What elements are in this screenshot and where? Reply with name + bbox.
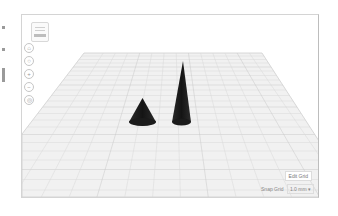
workplane-scene[interactable] (21, 14, 319, 198)
3d-viewport[interactable]: ⌂ ○ + − ◎ Edit Grid Snap Grid 1.0 mm ▾ (21, 14, 319, 198)
fit-icon: ○ (27, 58, 31, 64)
strip-mark (2, 48, 5, 51)
left-strip (0, 0, 18, 216)
minus-icon: − (27, 84, 31, 90)
ortho-icon: ◎ (27, 97, 32, 103)
snap-grid-select[interactable]: 1.0 mm ▾ (287, 184, 314, 194)
view-cube-line (35, 27, 45, 28)
snap-grid-value: 1.0 mm (290, 186, 307, 192)
view-cube[interactable] (31, 22, 49, 42)
view-controls: ⌂ ○ + − ◎ (24, 43, 34, 108)
home-icon: ⌂ (27, 45, 31, 51)
workplane (22, 53, 319, 197)
plus-icon: + (27, 71, 31, 77)
zoom-in-button[interactable]: + (24, 69, 34, 79)
snap-grid-label: Snap Grid (261, 186, 284, 192)
edit-grid-button[interactable]: Edit Grid (285, 171, 312, 181)
ortho-view-button[interactable]: ◎ (24, 95, 34, 105)
zoom-out-button[interactable]: − (24, 82, 34, 92)
strip-mark (2, 68, 5, 82)
view-cube-base (34, 34, 46, 37)
edit-grid-label: Edit Grid (289, 173, 308, 179)
view-cube-line (35, 30, 45, 31)
fit-view-button[interactable]: ○ (24, 56, 34, 66)
panel-resize-handle[interactable] (318, 107, 319, 115)
home-view-button[interactable]: ⌂ (24, 43, 34, 53)
snap-grid-control[interactable]: Snap Grid 1.0 mm ▾ (261, 184, 314, 194)
chevron-down-icon: ▾ (308, 186, 311, 192)
strip-mark (2, 26, 5, 29)
